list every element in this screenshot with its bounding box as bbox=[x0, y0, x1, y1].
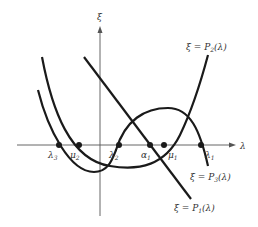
label-alpha1: α1 bbox=[141, 150, 151, 161]
label-lambda1: λ1 bbox=[204, 150, 215, 161]
point-alpha1 bbox=[147, 142, 153, 148]
diagram-canvas: ξ λ λ3 μ2 λ2 α1 μ1 λ1 ξ = P2(λ) ξ = P3(λ… bbox=[0, 0, 258, 227]
point-mu1 bbox=[161, 142, 167, 148]
label-curve-p1: ξ = P1(λ) bbox=[174, 203, 215, 214]
point-mu2 bbox=[76, 142, 82, 148]
xi-axis-label: ξ bbox=[97, 12, 103, 22]
lambda-axis-arrow-icon bbox=[229, 143, 236, 148]
label-curve-p2: ξ = P2(λ) bbox=[186, 42, 227, 53]
label-curve-p3: ξ = P3(λ) bbox=[190, 172, 231, 183]
lambda-axis-label: λ bbox=[239, 141, 246, 151]
point-lambda1 bbox=[198, 142, 204, 148]
point-lambda3 bbox=[56, 142, 62, 148]
label-mu2: μ2 bbox=[70, 150, 80, 161]
label-lambda3: λ3 bbox=[47, 150, 58, 161]
point-lambda2 bbox=[116, 142, 122, 148]
label-mu1: μ1 bbox=[168, 150, 178, 161]
label-lambda2: λ2 bbox=[108, 150, 119, 161]
xi-axis-arrow-icon bbox=[98, 26, 103, 33]
